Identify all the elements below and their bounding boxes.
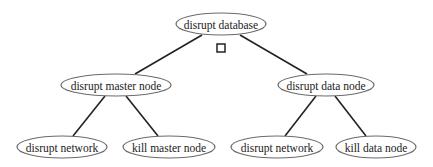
node-label: disrupt network [241, 142, 314, 155]
node-master-disrupt-network: disrupt network [17, 136, 107, 158]
edge-root-data [240, 35, 307, 74]
node-disrupt-database: disrupt database [176, 13, 266, 35]
node-label: disrupt database [184, 19, 258, 32]
node-kill-master-node: kill master node [123, 136, 215, 158]
node-disrupt-master-node: disrupt master node [61, 74, 171, 96]
node-label: disrupt master node [71, 80, 162, 93]
node-data-disrupt-network: disrupt network [231, 136, 323, 158]
node-label: kill data node [345, 142, 408, 154]
edge-root-master [135, 35, 202, 74]
or-gate-square-icon [217, 44, 225, 52]
edge-master-kill [126, 96, 158, 136]
node-label: disrupt network [26, 142, 99, 155]
edge-data-network [285, 96, 316, 136]
node-label: disrupt data node [286, 80, 365, 93]
node-label: kill master node [132, 142, 206, 154]
edge-master-network [73, 96, 105, 136]
edge-data-kill [335, 96, 366, 136]
node-disrupt-data-node: disrupt data node [278, 74, 374, 96]
node-kill-data-node: kill data node [336, 136, 416, 158]
attack-tree-diagram: disrupt database disrupt master node dis… [0, 0, 433, 167]
